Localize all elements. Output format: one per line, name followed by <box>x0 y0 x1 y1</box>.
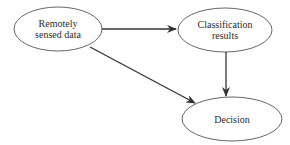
node-label-decision: Decision <box>214 114 250 125</box>
edge-remote-to-decision <box>90 47 195 103</box>
node-label-classification-results: Classification results <box>198 19 253 41</box>
diagram-canvas: Remotely sensed data Classification resu… <box>0 0 290 145</box>
node-label-remotely-sensed-data: Remotely sensed data <box>35 18 81 40</box>
